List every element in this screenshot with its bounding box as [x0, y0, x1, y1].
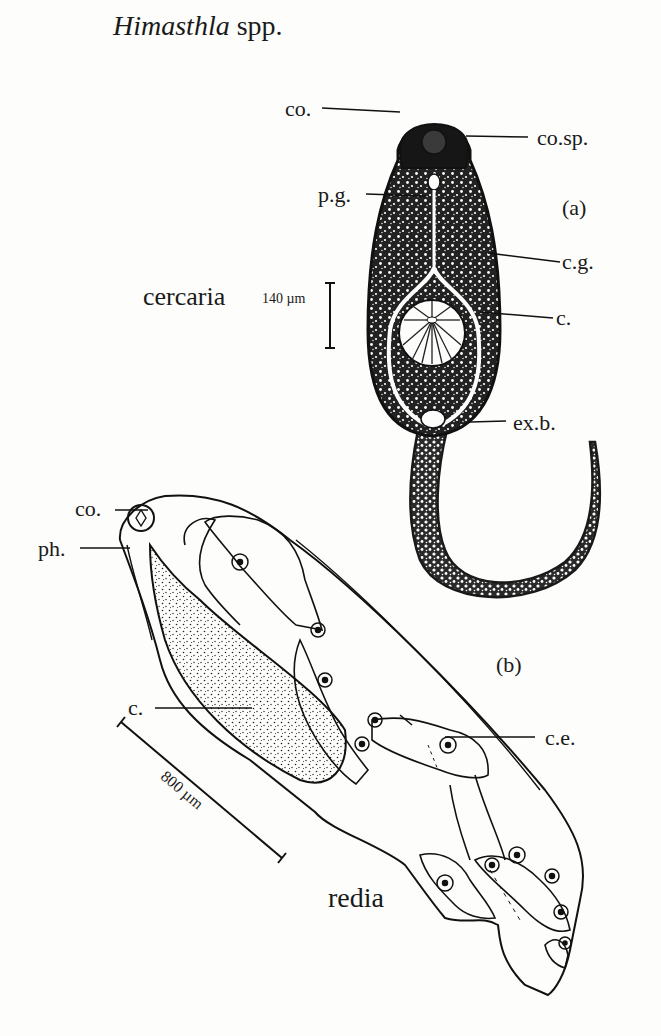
label-c-cercaria: c. — [556, 307, 571, 329]
cercaria-tail — [410, 430, 599, 597]
label-ex-b: ex.b. — [513, 412, 556, 434]
excretory-bladder — [421, 410, 445, 428]
redia-drawing — [120, 495, 583, 995]
label-c-e: c.e. — [545, 727, 576, 749]
label-co-sp: co.sp. — [537, 127, 588, 149]
label-co-cercaria: co. — [285, 98, 311, 120]
scale-bar-a — [325, 283, 335, 348]
pharynx — [428, 174, 440, 190]
scale-label-140um: 140 µm — [262, 292, 305, 306]
label-co-redia: co. — [75, 498, 101, 520]
label-c-redia: c. — [128, 697, 143, 719]
panel-label-a: (a) — [562, 197, 586, 219]
redia-body-outline — [120, 495, 583, 995]
label-p-g: p.g. — [318, 184, 351, 206]
stage-name-redia: redia — [328, 884, 384, 912]
label-c-g: c.g. — [562, 251, 594, 273]
stage-name-cercaria: cercaria — [143, 284, 225, 310]
redia-caecum — [150, 545, 346, 783]
oral-sucker — [422, 130, 446, 154]
panel-label-b: (b) — [496, 654, 522, 676]
label-ph: ph. — [38, 538, 66, 560]
